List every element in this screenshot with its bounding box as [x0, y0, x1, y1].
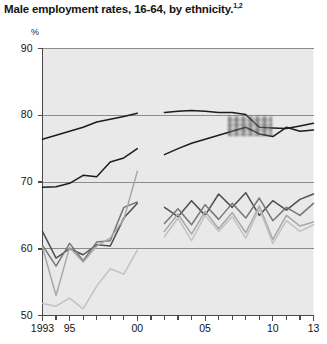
y-tick-label-80: 80: [7, 108, 33, 120]
x-tick-label-2013: 13: [294, 322, 327, 334]
x-tick-label-2005: 05: [185, 322, 225, 334]
chart-root: Male employment rates, 16-64, by ethnici…: [0, 0, 327, 344]
y-tick-label-90: 90: [7, 42, 33, 54]
x-tick-label-1995: 95: [50, 322, 90, 334]
y-tick-label-70: 70: [7, 175, 33, 187]
plot-area: 908070605019939500051013: [0, 0, 327, 344]
x-tick-label-2010: 10: [253, 322, 293, 334]
y-tick-label-60: 60: [7, 242, 33, 254]
y-tick-label-50: 50: [7, 309, 33, 321]
x-tick-label-2000: 00: [117, 322, 157, 334]
chart-svg: [0, 0, 327, 344]
